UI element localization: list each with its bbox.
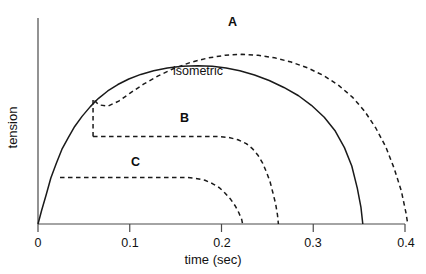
series-a bbox=[93, 54, 408, 224]
chart-plot-area bbox=[0, 0, 426, 274]
series-c bbox=[60, 177, 243, 224]
y-axis-title: tension bbox=[5, 98, 20, 158]
x-axis-title: time (sec) bbox=[0, 252, 426, 267]
x-tick-label-2: 0.2 bbox=[204, 236, 240, 250]
curve-label-a: A bbox=[228, 15, 237, 29]
x-axis-ticks bbox=[38, 224, 405, 232]
axis-lines bbox=[38, 18, 405, 224]
curve-label-c: C bbox=[131, 155, 140, 169]
tension-time-chart: 0 0.1 0.2 0.3 0.4 time (sec) tension A i… bbox=[0, 0, 426, 274]
series-isometric bbox=[38, 66, 363, 224]
x-tick-label-1: 0.1 bbox=[112, 236, 148, 250]
x-tick-label-0: 0 bbox=[28, 236, 48, 250]
series-b bbox=[93, 137, 278, 224]
chart-series-layer bbox=[38, 54, 408, 224]
curve-label-isometric: isometric bbox=[173, 64, 223, 78]
curve-label-b: B bbox=[180, 111, 189, 125]
x-tick-label-4: 0.4 bbox=[388, 236, 424, 250]
x-tick-label-3: 0.3 bbox=[295, 236, 331, 250]
